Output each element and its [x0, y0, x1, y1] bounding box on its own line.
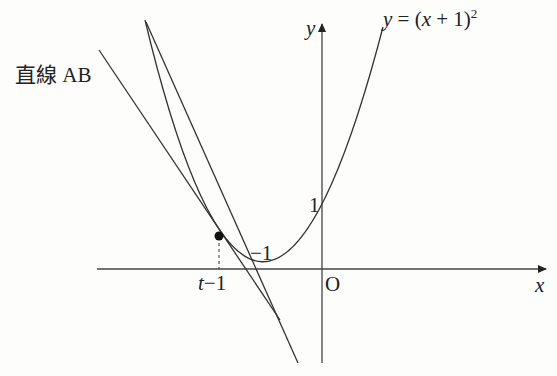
- curve-label-exponent: 2: [471, 6, 478, 21]
- curve-label-x: x: [422, 7, 431, 31]
- parabola-curve: [145, 20, 383, 262]
- tangent-point: [215, 232, 224, 241]
- curve-label-eq: = (: [392, 7, 421, 31]
- line-ab: [99, 50, 280, 320]
- diagram-canvas: [0, 0, 557, 376]
- y-intercept-label: 1: [309, 195, 320, 216]
- origin-label: O: [325, 274, 340, 295]
- vertex-label: −1: [250, 243, 272, 264]
- tangent-x-label-rest: −1: [204, 271, 226, 295]
- curve-label: y = (x + 1)2: [383, 7, 477, 30]
- tangent-x-label: t−1: [198, 273, 226, 294]
- curve-label-y: y: [383, 7, 392, 31]
- x-axis-label: x: [535, 275, 544, 296]
- y-axis-label: y: [306, 18, 315, 39]
- curve-label-rest: + 1): [431, 7, 471, 31]
- line-ab-label: 直線 AB: [15, 65, 91, 86]
